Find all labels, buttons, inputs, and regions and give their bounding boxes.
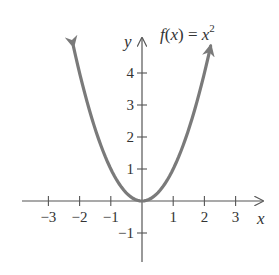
x-tick-label: −1 [103,209,119,225]
y-axis-label: y [122,32,132,51]
parabola-chart: −3−2−1123 −11234 y x f(x) = x2 [0,0,279,275]
y-tick-label: 2 [127,129,135,145]
x-tick-label: 2 [201,209,209,225]
x-tick-label: −2 [72,209,88,225]
y-tick-label: 4 [127,65,135,81]
x-tick-label: 3 [232,209,240,225]
y-ticks: −11234 [118,65,147,241]
x-tick-label: 1 [169,209,177,225]
y-tick-label: 1 [127,161,135,177]
function-label: f(x) = x2 [160,22,215,44]
y-tick-label: 3 [127,97,135,113]
x-tick-label: −3 [40,209,56,225]
y-tick-label: −1 [118,225,134,241]
x-axis-label: x [256,209,265,228]
